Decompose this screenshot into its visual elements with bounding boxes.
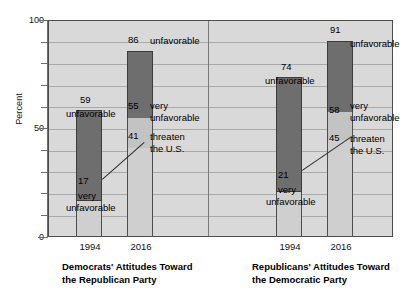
- value-label-republicans-2016-low: 45: [329, 133, 340, 143]
- value-label-democrats-2016-mid: 55: [128, 101, 139, 111]
- note-republicans-2016-top: unfavorable: [350, 38, 400, 49]
- y-tick-80: [41, 63, 47, 64]
- value-label-republicans-1994-inner: 21: [278, 170, 289, 180]
- y-tick-40: [41, 150, 47, 151]
- panel-divider: [208, 21, 209, 236]
- panel-caption-democrats-line1: Democrats' Attitudes Toward: [62, 261, 193, 274]
- y-tick-20: [41, 193, 47, 194]
- note-democrats-1994-top: unfavorable: [66, 108, 116, 119]
- x-tick-label-democrats-1994: 1994: [62, 241, 118, 252]
- bar-democrats-1994: [76, 110, 102, 237]
- bar-republicans-1994: [276, 77, 302, 237]
- y-tick-90: [41, 42, 47, 43]
- panel-caption-republicans-line2: the Democratic Party: [252, 274, 347, 287]
- note-democrats-2016-low-1: threaten: [150, 131, 185, 142]
- y-axis-title: Percent: [14, 74, 24, 144]
- panel-caption-republicans-line1: Republicans' Attitudes Toward: [252, 261, 390, 274]
- value-label-democrats-1994-top: 59: [80, 95, 91, 105]
- x-tick-label-republicans-1994: 1994: [262, 241, 318, 252]
- note-democrats-1994-inner-1: very: [78, 190, 96, 201]
- note-democrats-2016-low-2: the U.S.: [150, 143, 184, 154]
- y-tick-30: [41, 172, 47, 173]
- y-tick-70: [41, 85, 47, 86]
- value-label-republicans-1994-top: 74: [281, 62, 292, 72]
- note-republicans-2016-mid-2: unfavorable: [350, 112, 400, 123]
- note-democrats-2016-mid-2: unfavorable: [150, 112, 200, 123]
- value-label-republicans-2016-top: 91: [330, 25, 341, 35]
- x-tick-label-democrats-2016: 2016: [113, 241, 169, 252]
- note-republicans-2016-low-1: threaten: [350, 133, 385, 144]
- y-tick-10: [41, 215, 47, 216]
- panel-caption-democrats-line2: the Republican Party: [62, 274, 157, 287]
- x-tick-label-republicans-2016: 2016: [313, 241, 369, 252]
- note-republicans-1994-inner-1: very: [278, 184, 296, 195]
- y-tick-50: [38, 128, 47, 129]
- value-label-democrats-2016-low: 41: [128, 131, 139, 141]
- y-tick-0: [38, 237, 47, 238]
- note-republicans-1994-inner-2: unfavorable: [266, 196, 316, 207]
- note-republicans-1994-top: unfavorable: [265, 75, 315, 86]
- y-tick-60: [41, 107, 47, 108]
- note-democrats-2016-top: unfavorable: [150, 35, 200, 46]
- chart-figure: Percent 100 50 0: [0, 0, 410, 293]
- bar-segment-unfavorable: [76, 110, 102, 201]
- value-label-democrats-1994-inner: 17: [78, 176, 89, 186]
- note-republicans-2016-low-2: the U.S.: [350, 145, 384, 156]
- bar-segment-threaten: [127, 148, 153, 237]
- value-label-republicans-2016-mid: 58: [329, 105, 340, 115]
- value-label-democrats-2016-top: 86: [128, 35, 139, 45]
- y-tick-100: [38, 20, 47, 21]
- note-democrats-2016-mid-1: very: [150, 100, 168, 111]
- note-democrats-1994-inner-2: unfavorable: [66, 202, 116, 213]
- note-republicans-2016-mid-1: very: [350, 100, 368, 111]
